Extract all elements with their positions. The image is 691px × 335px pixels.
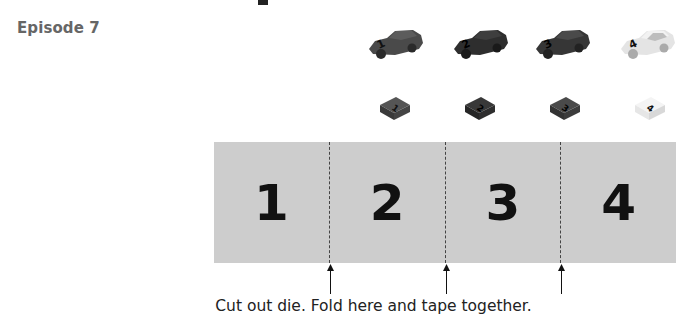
token-4-icon: 4	[631, 93, 669, 123]
car-2-icon: 2	[450, 25, 512, 63]
token-2-icon: 2	[461, 93, 499, 123]
token-1-icon: 1	[376, 93, 414, 123]
car-4-icon: 4	[617, 25, 679, 63]
die-panel-1: 1	[214, 142, 329, 263]
token-3-icon: 3	[546, 93, 584, 123]
die-panel-3: 3	[445, 142, 561, 263]
die-strip: 1 2 3 4	[214, 142, 676, 263]
die-panel-2: 2	[329, 142, 445, 263]
die-panel-4: 4	[560, 142, 676, 263]
episode-label: Episode 7	[17, 19, 100, 37]
car-3-icon: 3	[532, 25, 594, 63]
instructions-text: Cut out die. Fold here and tape together…	[215, 297, 532, 315]
fold-arrow-icon	[557, 264, 566, 294]
car-1-icon: 1	[365, 25, 427, 63]
fold-arrow-icon	[326, 264, 335, 294]
fold-arrow-icon	[442, 264, 451, 294]
heading-fragment	[258, 0, 268, 5]
instructions-caption: Cut out die. Fold here and tape together…	[0, 297, 691, 315]
